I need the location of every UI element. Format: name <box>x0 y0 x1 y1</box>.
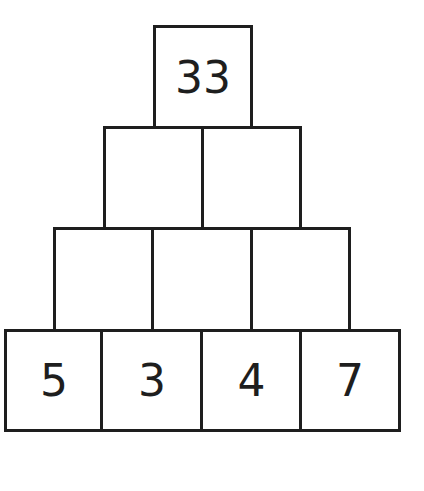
pyramid-cell-r3-c3[interactable] <box>250 227 351 332</box>
pyramid-cell-r4-c2: 3 <box>100 329 204 432</box>
pyramid-cell-r3-c2[interactable] <box>151 227 253 332</box>
pyramid-cell-r2-c1[interactable] <box>103 126 204 230</box>
pyramid-cell-r4-c3: 4 <box>200 329 303 432</box>
pyramid-cell-r2-c2[interactable] <box>201 126 302 230</box>
pyramid-cell-r4-c1: 5 <box>4 329 104 432</box>
pyramid-cell-top: 33 <box>153 25 253 129</box>
pyramid-cell-r3-c1[interactable] <box>53 227 154 332</box>
pyramid-cell-r4-c4: 7 <box>299 329 401 432</box>
